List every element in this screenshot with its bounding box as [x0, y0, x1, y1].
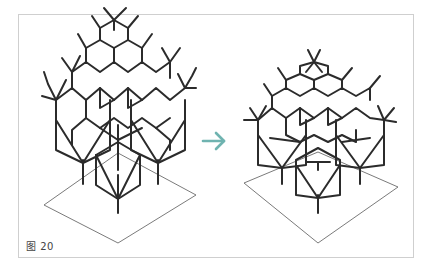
figure-caption: 图 20 — [26, 238, 54, 253]
figure-diagram — [0, 0, 429, 277]
right-structure — [244, 50, 396, 213]
right-arrow-icon — [203, 133, 224, 149]
